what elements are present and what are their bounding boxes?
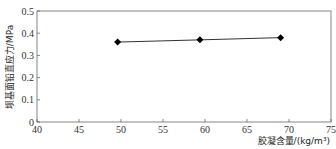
- x-axis-title: 胶凝含量/(kg/m³): [258, 135, 330, 146]
- data-series: [114, 34, 284, 45]
- x-tick-label: 60: [200, 124, 210, 135]
- x-tick-label: 65: [242, 124, 252, 135]
- x-tick-label: 75: [326, 124, 336, 135]
- y-tick-label: 0.5: [22, 6, 35, 17]
- y-tick-label: 0: [29, 117, 34, 128]
- x-tick-label: 45: [74, 124, 84, 135]
- x-tick-label: 70: [284, 124, 294, 135]
- plot-frame: [37, 11, 331, 122]
- y-tick-label: 0.1: [22, 94, 35, 105]
- y-tick-label: 0.2: [22, 72, 35, 83]
- diamond-marker-icon: [114, 39, 121, 46]
- x-tick-label: 55: [158, 124, 168, 135]
- y-tick-label: 0.4: [22, 28, 35, 39]
- plot-area: [37, 11, 331, 122]
- y-axis-title: 坝基面铅直应力/MPa: [4, 25, 15, 109]
- diamond-marker-icon: [196, 36, 203, 43]
- diamond-marker-icon: [277, 34, 284, 41]
- y-tick-label: 0.3: [22, 50, 35, 61]
- x-axis: 4045505560657075: [32, 119, 336, 135]
- x-tick-label: 50: [116, 124, 126, 135]
- line-chart: 4045505560657075 00.10.20.30.40.5 胶凝含量/(…: [0, 0, 336, 149]
